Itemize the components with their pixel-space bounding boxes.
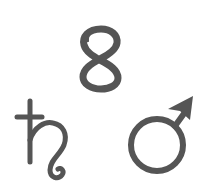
saturn-symbol	[17, 101, 65, 178]
mars-symbol	[131, 96, 193, 171]
symbols-figure	[0, 0, 208, 195]
symbol-canvas: 8 ♄ ♂	[0, 0, 208, 195]
eight-symbol	[83, 29, 118, 89]
